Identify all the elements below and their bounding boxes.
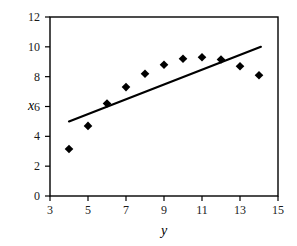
y-tick-label: 6 [34, 100, 40, 114]
y-tick-label: 0 [34, 189, 40, 203]
y-axis-title: x [27, 98, 35, 113]
x-axis-tick-labels: 3579111315 [47, 203, 284, 217]
x-tick-label: 11 [196, 203, 208, 217]
x-tick-label: 15 [272, 203, 284, 217]
plot-frame [50, 17, 278, 196]
scatter-chart: 3579111315 024681012 x y [0, 0, 297, 246]
x-tick-label: 5 [85, 203, 91, 217]
x-tick-label: 7 [123, 203, 129, 217]
x-tick-label: 9 [161, 203, 167, 217]
x-tick-label: 13 [234, 203, 246, 217]
x-axis-ticks [50, 196, 278, 201]
chart-canvas: 3579111315 024681012 x y [0, 0, 297, 246]
x-tick-label: 3 [47, 203, 53, 217]
y-axis-ticks [45, 17, 50, 196]
y-tick-label: 4 [34, 129, 40, 143]
y-tick-label: 10 [28, 40, 40, 54]
x-axis-title: y [159, 223, 168, 238]
y-tick-label: 12 [28, 10, 40, 24]
y-tick-label: 2 [34, 159, 40, 173]
y-tick-label: 8 [34, 70, 40, 84]
